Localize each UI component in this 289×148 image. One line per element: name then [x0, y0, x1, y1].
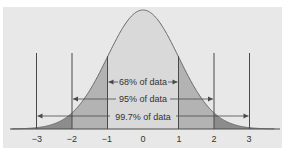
x-tick-label: 1 — [176, 134, 181, 144]
x-tick-label: −3 — [32, 134, 42, 144]
x-tick-label: 3 — [246, 134, 251, 144]
x-tick-label: 0 — [140, 134, 145, 144]
normal-distribution-chart: 68% of data 95% of data 99.7% of data −3… — [0, 0, 289, 148]
x-tick-label: −1 — [102, 134, 112, 144]
region-997-label: 99.7% of data — [115, 112, 171, 122]
region-95-label: 95% of data — [119, 94, 167, 104]
x-tick-label: −2 — [67, 134, 77, 144]
region-68-label: 68% of data — [119, 77, 167, 87]
x-tick-label: 2 — [211, 134, 216, 144]
